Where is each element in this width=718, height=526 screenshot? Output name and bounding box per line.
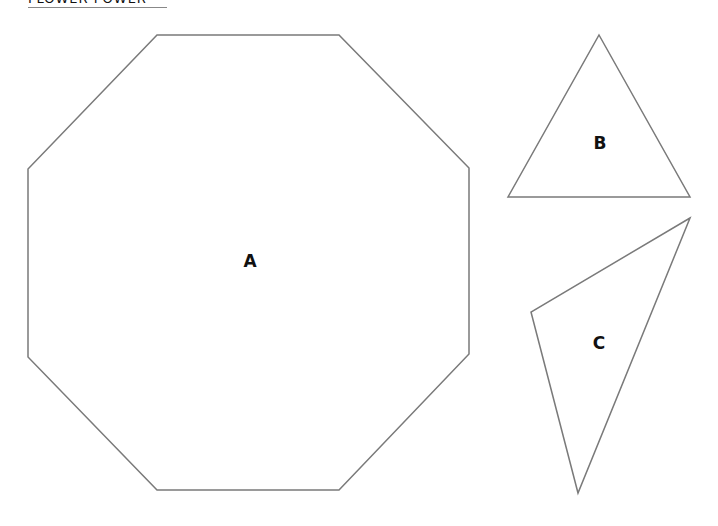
label-c: C — [593, 333, 605, 353]
shapes-diagram: A B C — [0, 0, 718, 526]
triangle-c[interactable] — [531, 218, 690, 493]
triangle-b[interactable] — [508, 35, 690, 197]
label-a: A — [243, 251, 257, 271]
label-b: B — [594, 133, 607, 153]
